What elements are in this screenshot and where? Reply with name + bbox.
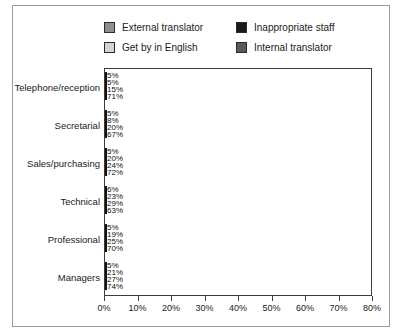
x-axis-tick-label: 0%	[97, 303, 110, 313]
x-axis-tick-label: 60%	[296, 303, 314, 313]
bar-value-label: 70%	[105, 245, 123, 253]
category-label: Managers	[8, 272, 100, 283]
plot-area: 5%5%15%71%5%8%20%67%5%20%24%72%6%23%29%6…	[104, 68, 372, 296]
x-axis-tick-label: 70%	[329, 303, 347, 313]
x-axis-tick-label: 80%	[363, 303, 381, 313]
category-label: Technical	[8, 196, 100, 207]
legend-item-external-translator: External translator	[104, 22, 203, 33]
bar-group: 5%19%25%70%	[105, 221, 371, 259]
x-axis-tick-labels: 0%10%20%30%40%50%60%70%80%	[104, 303, 372, 317]
x-axis-tick	[339, 296, 340, 301]
x-axis-tick	[238, 296, 239, 301]
bar-group: 5%5%15%71%	[105, 69, 371, 107]
bar-value-label: 72%	[105, 169, 123, 177]
bar-group: 6%23%29%63%	[105, 183, 371, 221]
legend-label: Inappropriate staff	[254, 22, 334, 33]
x-axis-tick-label: 30%	[195, 303, 213, 313]
bar-group: 5%20%24%72%	[105, 145, 371, 183]
bar-value-label: 74%	[105, 283, 123, 291]
x-axis-tick	[171, 296, 172, 301]
legend-label: Internal translator	[254, 42, 332, 53]
category-label: Secretarial	[8, 120, 100, 131]
x-axis-tick	[104, 296, 105, 301]
category-label: Telephone/reception	[8, 82, 100, 93]
bar-value-label: 67%	[105, 131, 123, 139]
legend-swatch-icon	[236, 42, 247, 53]
category-label: Sales/purchasing	[8, 158, 100, 169]
category-label: Professional	[8, 234, 100, 245]
bar-value-label: 63%	[105, 207, 123, 215]
bars-container: 5%5%15%71%5%8%20%67%5%20%24%72%6%23%29%6…	[105, 69, 371, 295]
x-axis-ticks	[104, 296, 372, 301]
bar-value-label: 71%	[105, 93, 123, 101]
x-axis-tick-label: 20%	[162, 303, 180, 313]
legend-swatch-icon	[104, 22, 115, 33]
legend-label: External translator	[122, 22, 203, 33]
x-axis-tick	[138, 296, 139, 301]
x-axis-tick-label: 40%	[229, 303, 247, 313]
x-axis-tick	[205, 296, 206, 301]
x-axis-tick-label: 50%	[262, 303, 280, 313]
bar-group: 5%8%20%67%	[105, 107, 371, 145]
bar-group: 5%21%27%74%	[105, 259, 371, 297]
chart-figure: External translator Get by in English In…	[0, 0, 402, 335]
y-axis-category-labels: Telephone/receptionSecretarialSales/purc…	[8, 68, 100, 296]
legend-swatch-icon	[104, 42, 115, 53]
legend-item-inappropriate-staff: Inappropriate staff	[236, 22, 334, 33]
chart-legend: External translator Get by in English In…	[104, 22, 356, 62]
legend-item-internal-translator: Internal translator	[236, 42, 332, 53]
x-axis-tick	[272, 296, 273, 301]
x-axis-tick	[372, 296, 373, 301]
legend-item-get-by-in-english: Get by in English	[104, 42, 198, 53]
x-axis-tick	[305, 296, 306, 301]
legend-label: Get by in English	[122, 42, 198, 53]
legend-swatch-icon	[236, 22, 247, 33]
x-axis-tick-label: 10%	[128, 303, 146, 313]
